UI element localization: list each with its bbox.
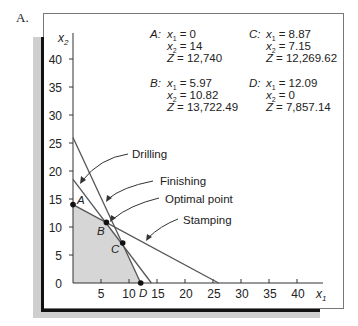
point-d-label: D <box>139 287 147 299</box>
point-b-label: B <box>97 225 105 237</box>
svg-text:25: 25 <box>49 137 63 151</box>
y-tick-labels: 0 5 10 15 20 25 30 35 40 <box>49 53 63 291</box>
point-c-label: C <box>111 243 120 255</box>
lp-graph: 0 5 10 15 20 25 30 35 40 5 10 15 20 25 3… <box>0 0 358 326</box>
svg-text:Z= 13,722.49: Z= 13,722.49 <box>166 101 238 113</box>
svg-text:15: 15 <box>151 287 165 301</box>
optimal-point-label: Optimal point <box>165 193 234 205</box>
svg-text:15: 15 <box>49 193 63 207</box>
y-axis-label: x2 <box>57 31 69 47</box>
drilling-label: Drilling <box>132 148 167 160</box>
point-a <box>70 202 76 208</box>
stamping-label: Stamping <box>183 214 232 226</box>
corner-table: A: x1= 0 x2= 14 Z= 12,740 B: x1= 5.97 x2… <box>149 28 337 113</box>
svg-text:20: 20 <box>179 287 193 301</box>
svg-text:35: 35 <box>49 81 63 95</box>
svg-text:40: 40 <box>291 287 305 301</box>
svg-text:35: 35 <box>263 287 277 301</box>
svg-text:0: 0 <box>55 277 62 291</box>
svg-text:20: 20 <box>49 165 63 179</box>
svg-text:C:: C: <box>249 28 261 40</box>
svg-text:A:: A: <box>149 28 161 40</box>
svg-text:10: 10 <box>49 221 63 235</box>
y-ticks <box>69 59 73 255</box>
point-c <box>120 240 126 246</box>
svg-text:10: 10 <box>122 287 136 301</box>
point-a-label: A <box>76 194 85 206</box>
svg-text:30: 30 <box>235 287 249 301</box>
svg-text:B:: B: <box>150 77 161 89</box>
finishing-label: Finishing <box>160 175 206 187</box>
svg-text:30: 30 <box>49 109 63 123</box>
svg-text:5: 5 <box>98 287 105 301</box>
feasible-region <box>73 205 141 283</box>
svg-text:40: 40 <box>49 53 63 67</box>
point-d <box>138 280 144 286</box>
x-tick-labels: 5 10 15 20 25 30 35 40 <box>98 287 305 301</box>
x-axis-label: x1 <box>315 287 326 303</box>
svg-text:D:: D: <box>249 77 261 89</box>
svg-text:5: 5 <box>55 249 62 263</box>
svg-text:Z= 12,269.62: Z= 12,269.62 <box>265 52 337 64</box>
svg-text:25: 25 <box>207 287 221 301</box>
